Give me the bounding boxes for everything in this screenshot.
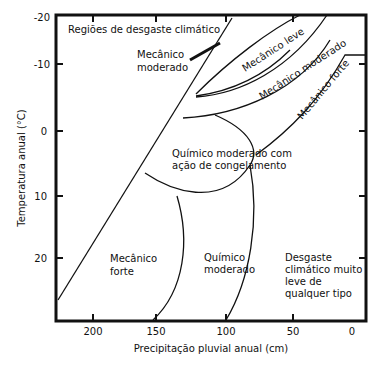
x-tick-label: 150 <box>146 326 165 337</box>
region-label-quimico-congelamento: Químico moderado com <box>172 148 292 159</box>
pointer-line <box>190 43 220 60</box>
diagram-title: Regiões de desgaste climático <box>68 24 220 35</box>
region-label-mecanico-moderado: moderado <box>137 62 188 73</box>
x-tick-label: 200 <box>83 326 102 337</box>
region-label-mecanico-moderado: Mecânico <box>137 49 184 60</box>
weathering-regions-diagram: -20 -10 0 10 20 200 150 100 50 0 Precipi… <box>0 0 382 365</box>
region-label-muito-leve: qualquer tipo <box>285 288 352 299</box>
y-tick-label: -10 <box>34 59 50 70</box>
region-label-muito-leve: leve de <box>285 276 322 287</box>
region-label-muito-leve: climático muito <box>285 264 362 275</box>
region-label-quimico-moderado: moderado <box>204 264 255 275</box>
boundary-quimico-moderado <box>153 196 184 320</box>
region-label-mecanico-forte: forte <box>110 266 134 277</box>
y-tick-label: -20 <box>34 12 50 23</box>
region-label-quimico-congelamento: ação de congelamento <box>172 160 286 171</box>
x-tick-label: 0 <box>349 326 355 337</box>
x-tick-label: 100 <box>216 326 235 337</box>
x-tick-label: 50 <box>287 326 300 337</box>
x-axis-title: Precipitação pluvial anual (cm) <box>134 343 289 354</box>
y-tick-label: 20 <box>34 253 47 264</box>
boundary-muito-leve <box>226 165 254 320</box>
region-label-muito-leve: Desgaste <box>285 252 332 263</box>
y-axis-title: Temperatura anual (°C) <box>16 109 27 227</box>
region-label-mecanico-forte: Mecânico <box>110 253 157 264</box>
y-tick-label: 10 <box>34 191 47 202</box>
y-tick-label: 0 <box>41 126 47 137</box>
region-label-quimico-moderado: Químico <box>204 252 245 263</box>
